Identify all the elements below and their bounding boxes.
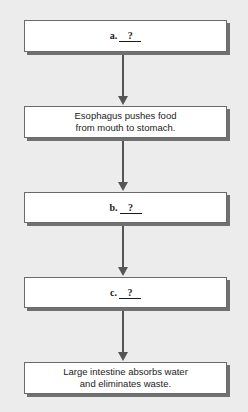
arrowhead-icon bbox=[118, 267, 128, 276]
arrowhead-icon bbox=[118, 96, 128, 105]
step-c-blank: ? bbox=[119, 288, 141, 299]
step-b-blank: ? bbox=[120, 203, 142, 214]
arrow-esophagus-to-b bbox=[122, 141, 124, 183]
step-a-label: a.? bbox=[110, 30, 142, 42]
step-esophagus-box: Esophagus pushes food from mouth to stom… bbox=[24, 106, 227, 138]
arrow-c-to-large-intestine bbox=[122, 311, 124, 353]
step-c-label: c.? bbox=[110, 287, 141, 299]
step-c-box: c.? bbox=[24, 277, 227, 308]
arrowhead-icon bbox=[118, 352, 128, 361]
step-large-intestine-box: Large intestine absorbs water and elimin… bbox=[24, 362, 227, 394]
step-b-box: b.? bbox=[24, 192, 227, 223]
step-esophagus-text: Esophagus pushes food from mouth to stom… bbox=[25, 110, 226, 134]
step-b-letter: b. bbox=[109, 202, 117, 213]
step-a-blank: ? bbox=[119, 31, 141, 42]
step-a-letter: a. bbox=[110, 30, 118, 41]
step-c-letter: c. bbox=[110, 287, 117, 298]
step-large-intestine-text: Large intestine absorbs water and elimin… bbox=[25, 366, 226, 390]
step-b-label: b.? bbox=[109, 202, 141, 214]
arrow-b-to-c bbox=[122, 226, 124, 268]
arrow-a-to-esophagus bbox=[122, 55, 124, 97]
arrowhead-icon bbox=[118, 182, 128, 191]
step-a-box: a.? bbox=[24, 20, 227, 52]
